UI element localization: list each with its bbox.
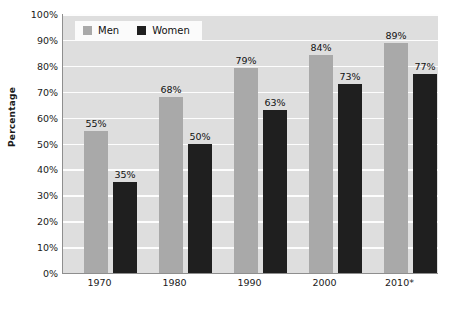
bar-value-label: 35%	[114, 169, 135, 180]
bar-value-label: 50%	[189, 131, 210, 142]
x-axis-tick-label: 1990	[212, 277, 287, 288]
bar-value-label: 63%	[264, 97, 285, 108]
bar-value-label: 84%	[310, 42, 331, 53]
y-axis-tick-label: 60%	[30, 112, 58, 123]
bar-chart: Percentage 0%10%20%30%40%50%60%70%80%90%…	[0, 0, 454, 313]
legend-item-men: Men	[83, 25, 119, 36]
y-axis-tick-label: 50%	[30, 138, 58, 149]
bar-men-1970: 55%	[84, 131, 108, 273]
bar-women-1980: 50%	[188, 144, 212, 274]
y-axis-tick-label: 30%	[30, 190, 58, 201]
bar-women-2000: 73%	[338, 84, 362, 273]
y-axis-tick-label: 0%	[30, 268, 58, 279]
legend-label: Men	[98, 25, 119, 36]
x-axis-tick-labels: 19701980199020002010*	[62, 277, 437, 288]
x-axis-tick-label: 1970	[62, 277, 137, 288]
bar-value-label: 77%	[414, 61, 435, 72]
bar-value-label: 89%	[385, 30, 406, 41]
bar-men-1980: 68%	[159, 97, 183, 273]
bar-value-label: 68%	[160, 84, 181, 95]
bar-group: 89%77%	[363, 14, 438, 273]
x-axis-tick-label: 1980	[137, 277, 212, 288]
bar-group: 55%35%	[63, 14, 138, 273]
bar-group: 68%50%	[138, 14, 213, 273]
bar-value-label: 73%	[339, 71, 360, 82]
y-axis-title: Percentage	[7, 72, 17, 162]
bar-value-label: 79%	[235, 55, 256, 66]
legend-label: Women	[152, 25, 190, 36]
y-axis-tick-label: 40%	[30, 164, 58, 175]
bar-group: 84%73%	[288, 14, 363, 273]
x-axis-tick-label: 2010*	[362, 277, 437, 288]
y-axis-tick-label: 80%	[30, 60, 58, 71]
y-axis-tick-label: 70%	[30, 86, 58, 97]
legend-item-women: Women	[137, 25, 190, 36]
y-axis-tick-label: 10%	[30, 242, 58, 253]
x-axis-tick-label: 2000	[287, 277, 362, 288]
bar-men-1990: 79%	[234, 68, 258, 273]
y-axis-tick-label: 100%	[30, 9, 58, 20]
y-axis-tick-label: 90%	[30, 34, 58, 45]
chart-legend: MenWomen	[75, 21, 202, 40]
y-axis-tick-labels: 0%10%20%30%40%50%60%70%80%90%100%	[30, 14, 58, 273]
women-swatch	[137, 26, 146, 35]
plot-area: 55%35%68%50%79%63%84%73%89%77% MenWomen	[62, 14, 438, 274]
bar-group: 79%63%	[213, 14, 288, 273]
bar-groups: 55%35%68%50%79%63%84%73%89%77%	[63, 14, 438, 273]
bar-women-1970: 35%	[113, 182, 137, 273]
bar-value-label: 55%	[85, 118, 106, 129]
bar-men-2000: 84%	[309, 55, 333, 273]
y-axis-tick-label: 20%	[30, 216, 58, 227]
bar-women-2010: 77%	[413, 74, 437, 273]
bar-women-1990: 63%	[263, 110, 287, 273]
men-swatch	[83, 26, 92, 35]
bar-men-2010: 89%	[384, 43, 408, 274]
